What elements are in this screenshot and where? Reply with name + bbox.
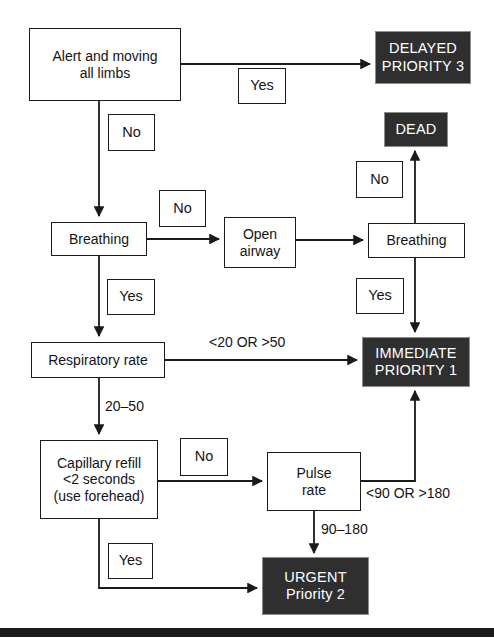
edge-label-breathing-right-yes-text: Yes [368, 287, 392, 304]
node-pulse-rate-line2: rate [296, 482, 331, 499]
node-breathing-left-label: Breathing [69, 231, 129, 248]
node-pulse-rate-line1: Pulse [296, 465, 331, 482]
terminal-delayed-priority-3[interactable]: DELAYED PRIORITY 3 [375, 31, 471, 84]
node-capillary-line2: <2 seconds [53, 471, 144, 488]
edge-label-breathing-right-no-text: No [370, 171, 389, 188]
terminal-delayed-line2: PRIORITY 3 [382, 58, 464, 75]
edge-label-pulse-normal-text: 90–180 [321, 521, 368, 537]
edge-label-respiratory-abnormal-text: <20 OR >50 [209, 334, 285, 350]
node-breathing-right[interactable]: Breathing [368, 223, 465, 258]
edge-label-alert-yes: Yes [238, 68, 286, 104]
node-alert-and-moving-all-limbs[interactable]: Alert and moving all limbs [29, 28, 181, 101]
node-alert-line2: all limbs [52, 65, 157, 82]
node-breathing-right-label: Breathing [387, 232, 447, 249]
node-open-airway-line1: Open [240, 226, 280, 243]
edge-pulse-abnormal-immediate [361, 391, 415, 481]
triage-flowchart: Alert and moving all limbs Breathing Ope… [0, 0, 494, 641]
edge-label-pulse-abnormal-text: <90 OR >180 [366, 485, 450, 501]
terminal-delayed-line1: DELAYED [382, 40, 464, 57]
node-capillary-line3: (use forehead) [53, 488, 144, 505]
node-open-airway-line2: airway [240, 243, 280, 260]
edge-label-alert-no-text: No [122, 124, 141, 141]
node-capillary-refill[interactable]: Capillary refill <2 seconds (use forehea… [40, 440, 158, 519]
terminal-immediate-line1: IMMEDIATE [375, 345, 457, 362]
terminal-urgent-line1: URGENT [284, 569, 346, 586]
edge-label-alert-yes-text: Yes [250, 77, 274, 94]
edge-label-respiratory-normal: 20–50 [105, 398, 144, 414]
terminal-immediate-line2: PRIORITY 1 [375, 362, 457, 379]
edge-label-capillary-no-text: No [195, 448, 214, 465]
terminal-immediate-priority-1[interactable]: IMMEDIATE PRIORITY 1 [362, 337, 470, 387]
node-respiratory-rate-label: Respiratory rate [48, 352, 148, 369]
page-footer-rule [0, 628, 494, 637]
terminal-urgent-line2: Priority 2 [284, 586, 346, 603]
edge-label-breathing-left-yes: Yes [107, 279, 155, 315]
edge-label-alert-no: No [108, 114, 155, 151]
edge-label-breathing-left-no: No [159, 190, 206, 227]
edge-label-breathing-right-no: No [356, 161, 403, 198]
node-capillary-line1: Capillary refill [53, 455, 144, 472]
terminal-dead[interactable]: DEAD [384, 112, 448, 147]
node-open-airway[interactable]: Open airway [224, 217, 296, 268]
edge-label-capillary-yes: Yes [108, 543, 153, 579]
edge-label-capillary-yes-text: Yes [119, 552, 143, 569]
node-respiratory-rate[interactable]: Respiratory rate [31, 342, 165, 378]
edge-label-breathing-left-no-text: No [173, 200, 192, 217]
edge-label-breathing-right-yes: Yes [356, 278, 404, 314]
node-alert-line1: Alert and moving [52, 48, 157, 65]
edge-label-pulse-normal: 90–180 [321, 521, 368, 537]
edge-label-pulse-abnormal: <90 OR >180 [366, 485, 450, 501]
terminal-urgent-priority-2[interactable]: URGENT Priority 2 [262, 557, 369, 615]
edge-label-respiratory-normal-text: 20–50 [105, 398, 144, 414]
node-pulse-rate[interactable]: Pulse rate [267, 452, 361, 511]
terminal-dead-label: DEAD [395, 121, 436, 138]
edge-label-breathing-left-yes-text: Yes [119, 288, 143, 305]
edge-label-capillary-no: No [180, 438, 228, 476]
node-breathing-left[interactable]: Breathing [51, 222, 147, 256]
edge-label-respiratory-abnormal: <20 OR >50 [209, 334, 285, 350]
